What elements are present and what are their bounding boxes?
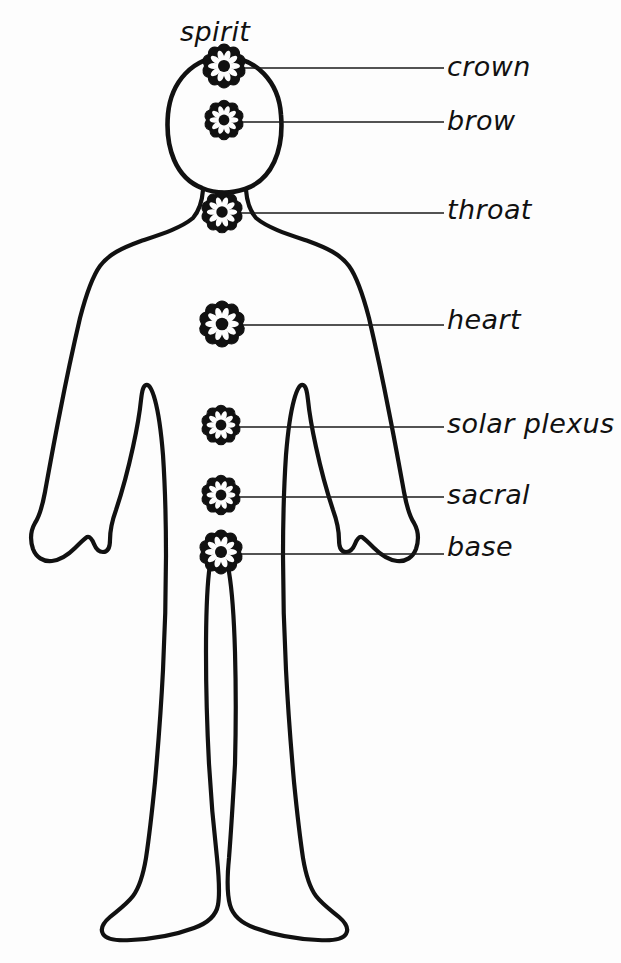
label-crown: crown: [447, 53, 531, 80]
chakra-flower-heart: [198, 300, 247, 347]
chakra-center: [216, 490, 227, 501]
label-base: base: [447, 533, 513, 560]
chakra-flower-throat: [200, 191, 244, 234]
chakra-flower-base: [198, 530, 245, 575]
chakra-center: [218, 60, 230, 72]
chakra-center: [216, 318, 229, 331]
chakra-center: [219, 115, 230, 126]
chakra-center: [216, 420, 227, 431]
chakra-diagram: spirit crown brow throat heart solar ple…: [0, 0, 621, 963]
label-solar-plexus: solar plexus: [447, 410, 615, 437]
leader-lines-group: [238, 68, 444, 554]
chakra-flowers-group: [198, 44, 248, 575]
label-throat: throat: [447, 196, 532, 223]
label-brow: brow: [447, 107, 515, 134]
chakra-center: [216, 206, 227, 217]
label-heart: heart: [447, 306, 521, 333]
label-sacral: sacral: [447, 481, 530, 508]
chakra-flower-brow: [203, 100, 245, 140]
chakra-flower-sacral: [200, 475, 242, 515]
label-spirit: spirit: [180, 18, 250, 45]
chakra-flower-solar-plexus: [200, 405, 242, 445]
chakra-center: [215, 546, 227, 558]
chakra-flower-crown: [201, 44, 248, 89]
